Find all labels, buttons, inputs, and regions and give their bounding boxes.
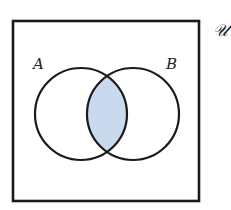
- venn-diagram: A B 𝒰: [0, 0, 231, 210]
- set-b-label: B: [165, 55, 177, 73]
- venn-svg: A B 𝒰: [0, 0, 231, 210]
- universe-label: 𝒰: [213, 20, 231, 40]
- set-a-label: A: [31, 55, 44, 73]
